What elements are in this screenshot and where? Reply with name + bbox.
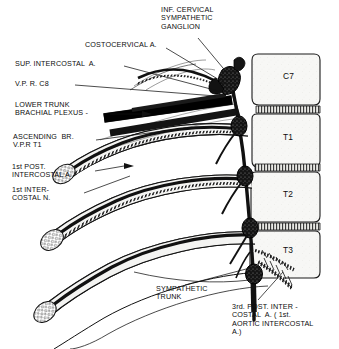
ganglion-t2 <box>237 166 253 186</box>
label-vertebra-t1: T1 <box>283 133 293 141</box>
label-costocervical-artery: COSTOCERVICAL A. <box>85 41 157 49</box>
label-sympathetic-trunk: SYMPATHETIC TRUNK <box>156 285 208 302</box>
label-third-posterior-intercostal-artery: 3rd. POST. INTER - COSTAL A. ( 1st. AORT… <box>232 303 314 337</box>
label-vpr-c8: V.P. R. C8 <box>15 80 49 88</box>
label-sup-intercostal-artery: SUP. INTERCOSTAL A. <box>15 60 96 68</box>
label-first-intercostal-nerve: 1st INTER- COSTAL N. <box>12 186 51 203</box>
label-inf-cervical-sympathetic-ganglion: INF. CERVICAL SYMPATHETIC GANGLION <box>161 6 214 31</box>
ganglion-t4 <box>246 264 263 284</box>
label-vertebra-c7: C7 <box>283 72 294 80</box>
label-lower-trunk-brachial-plexus: LOWER TRUNK BRACHIAL PLEXUS - <box>15 101 88 118</box>
label-vertebra-t2: T2 <box>283 190 293 198</box>
label-vertebra-t3: T3 <box>283 246 293 254</box>
ganglion-t1 <box>231 116 247 136</box>
label-first-posterior-intercostal-artery: 1st POST. INTERCOSTAL A. <box>12 163 72 180</box>
disc-c7-t1 <box>256 106 320 113</box>
disc-t2-t3 <box>254 223 320 230</box>
disc-t1-t2 <box>255 164 320 171</box>
label-ascending-branch-vpr-t1: ASCENDING BR. V.P.R T1 <box>13 133 74 150</box>
ganglion-t3 <box>242 218 258 238</box>
anatomical-figure: INF. CERVICAL SYMPATHETIC GANGLION COSTO… <box>0 0 339 349</box>
